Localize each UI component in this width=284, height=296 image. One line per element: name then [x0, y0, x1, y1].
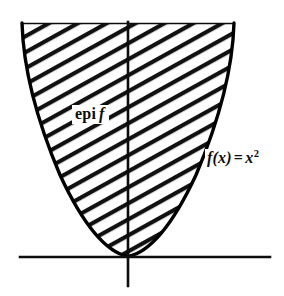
- function-label-equals: =: [232, 149, 245, 166]
- function-label: f(x)=x2: [205, 149, 261, 168]
- epigraph-label-italic: f: [96, 105, 106, 122]
- epigraph-figure: epif f(x)=x2: [0, 0, 284, 296]
- figure-canvas: [0, 0, 284, 296]
- epigraph-label: epif: [72, 105, 109, 124]
- epigraph-label-roman: epi: [75, 105, 96, 122]
- function-label-exponent: 2: [253, 148, 259, 159]
- function-label-argument: (x): [213, 149, 232, 166]
